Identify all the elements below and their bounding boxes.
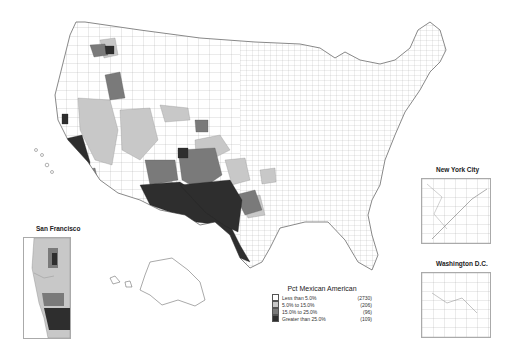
inset-title-washington: Washington D.C.: [436, 260, 488, 267]
legend-count: (109): [352, 316, 372, 322]
legend-label: 15.0% to 25.0%: [282, 309, 352, 315]
legend-item: 15.0% to 25.0% (96): [272, 308, 372, 315]
legend-swatch: [272, 294, 279, 301]
inset-title-new-york: New York City: [436, 166, 479, 173]
alaska: [110, 258, 205, 306]
legend: Pct Mexican American Less than 5.0% (273…: [272, 285, 372, 322]
islands: [35, 149, 54, 174]
legend-swatch: [272, 315, 279, 322]
legend-count: (2730): [352, 295, 372, 301]
legend-swatch: [272, 301, 279, 308]
legend-item: Greater than 25.0% (109): [272, 315, 372, 322]
legend-item: 5.0% to 15.0% (206): [272, 301, 372, 308]
legend-item: Less than 5.0% (2730): [272, 294, 372, 301]
inset-new-york: [421, 178, 491, 244]
legend-count: (206): [352, 302, 372, 308]
legend-label: 5.0% to 15.0%: [282, 302, 352, 308]
legend-count: (96): [352, 309, 372, 315]
legend-title: Pct Mexican American: [272, 285, 372, 292]
inset-san-francisco: [23, 237, 71, 339]
inset-washington: [421, 272, 491, 338]
legend-swatch: [272, 308, 279, 315]
legend-label: Greater than 25.0%: [282, 316, 352, 322]
inset-title-san-francisco: San Francisco: [36, 225, 80, 232]
legend-label: Less than 5.0%: [282, 295, 352, 301]
